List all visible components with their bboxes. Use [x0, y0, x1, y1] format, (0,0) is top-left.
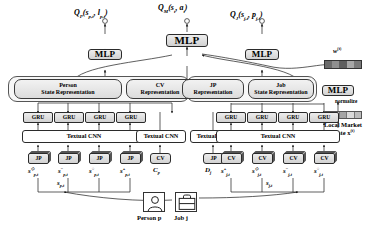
mlp-market[interactable]: MLP [322, 85, 354, 96]
person-state-representation[interactable]: Person State Representation [14, 79, 122, 99]
textual-cnn-cv[interactable]: Textual CNN [136, 130, 186, 143]
cv-doc-j-2[interactable]: CV [252, 153, 273, 164]
cv-doc-j-1[interactable]: CV [221, 153, 242, 164]
textual-cnn-person[interactable]: Textual CNN [22, 130, 146, 143]
mlp-top[interactable]: MLP [166, 34, 208, 47]
rep-line2: Representation [141, 89, 180, 97]
gru-person-4[interactable]: GRU [116, 112, 146, 123]
s-p-t-plus: s+p,t [120, 166, 130, 177]
briefcase-icon [175, 192, 197, 212]
rep-line1: CV [156, 82, 165, 90]
cv-doc-label: CV [283, 153, 304, 164]
rep-line1: Job [276, 82, 285, 90]
s-p-t-minus: s−p,t [58, 166, 68, 177]
mlp-person[interactable]: MLP [88, 49, 122, 60]
rep-line2: State Representation [254, 89, 307, 97]
job-state-aggregate: sj,t [266, 179, 272, 188]
rep-line1: JP [210, 82, 217, 90]
jp-doc-p-2[interactable]: JP [58, 153, 79, 164]
jp-doc-label: JP [28, 153, 49, 164]
s-j-t-circle: s○j,t [314, 166, 323, 177]
c-p-label: Cp [153, 166, 160, 175]
jp-doc-p-1[interactable]: JP [28, 153, 49, 164]
gru-job-1[interactable]: GRU [216, 112, 246, 123]
gru-person-3[interactable]: GRU [85, 112, 115, 123]
cv-doc-label: CV [314, 153, 335, 164]
diagram-canvas: QP(sp,t, lp,t) QM(st, at) QJ(sj,t, pj,t)… [0, 0, 381, 228]
market-weight-bar [324, 60, 362, 69]
jp-doc-label: JP [89, 153, 110, 164]
job-caption: Job j [174, 214, 188, 221]
gru-person-2[interactable]: GRU [54, 112, 84, 123]
cv-doc-person[interactable]: CV [150, 153, 171, 164]
market-weights-label: w(t) [333, 46, 341, 54]
cv-doc-j-4[interactable]: CV [314, 153, 335, 164]
jp-doc-label: JP [120, 153, 141, 164]
q-market-label: QM(st, at) [158, 3, 187, 14]
jp-doc-p-4[interactable]: JP [120, 153, 141, 164]
normalize-label: normalize [335, 98, 357, 104]
person-caption: Person p [137, 214, 161, 221]
job-state-representation[interactable]: Job State Representation [248, 79, 314, 99]
rep-line1: Person [59, 82, 77, 90]
s-j-t-minus: s−j,t [283, 166, 292, 177]
rep-line2: State Representation [41, 89, 94, 97]
gru-job-3[interactable]: GRU [278, 112, 308, 123]
jp-doc-label: JP [58, 153, 79, 164]
person-avatar-icon [143, 192, 165, 212]
s-p-t-diamond: s◇p,t [28, 166, 38, 177]
gru-person-1[interactable]: GRU [23, 112, 53, 123]
textual-cnn-job[interactable]: Textual CNN [216, 130, 340, 143]
gru-job-4[interactable]: GRU [309, 112, 339, 123]
gru-job-2[interactable]: GRU [247, 112, 277, 123]
cv-doc-label: CV [221, 153, 242, 164]
s-j-t-plus: s+j,t [221, 166, 230, 177]
jp-doc-p-3[interactable]: JP [89, 153, 110, 164]
d-j-label: Dj [205, 166, 211, 175]
s-p-t-circle: s○p,t [89, 166, 99, 177]
rep-line2: Representation [194, 89, 233, 97]
q-job-label: QJ(sj,t, pj,t) [230, 10, 263, 21]
mlp-job[interactable]: MLP [245, 49, 279, 60]
jp-representation[interactable]: JP Representation [182, 79, 244, 99]
cv-doc-j-3[interactable]: CV [283, 153, 304, 164]
cv-doc-label: CV [252, 153, 273, 164]
q-person-label: QP(sp,t, lp,t) [74, 8, 108, 19]
s-j-t-diamond: s◇j,t [252, 166, 261, 177]
person-state-aggregate: sp,t [57, 179, 64, 188]
